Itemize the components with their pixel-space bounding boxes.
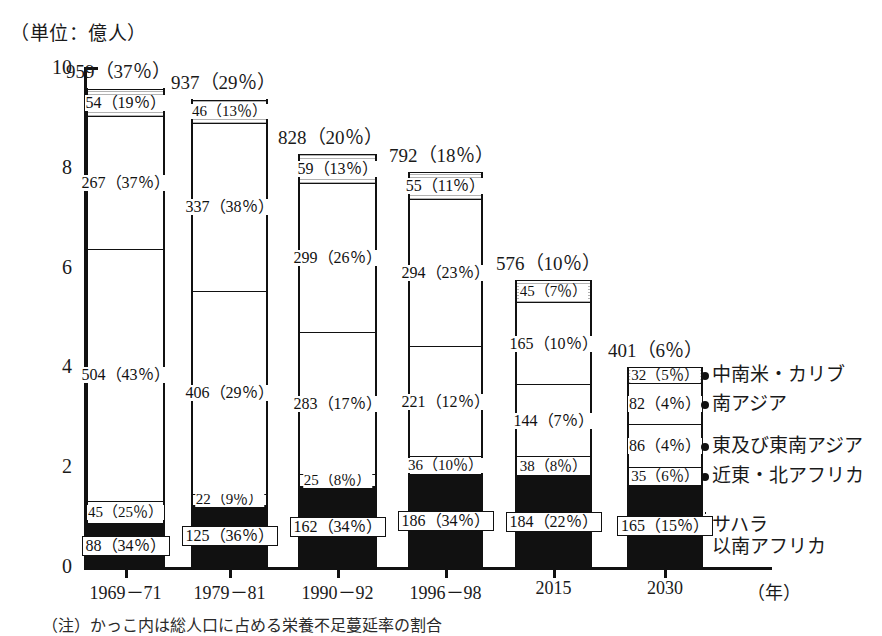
- segment-value-label: 22（9％）: [195, 492, 265, 507]
- segment-east-southeast-asia-2030[interactable]: 86（4％）: [629, 424, 701, 467]
- x-tick-label-1: 1979－81: [170, 578, 290, 604]
- bar-total-1969－71: 959（37％）: [66, 62, 171, 81]
- segment-value-label: 267（37％）: [81, 175, 171, 191]
- y-tick-label-8: 8: [30, 157, 72, 177]
- bar-1996－98[interactable]: 186（34％）36（10％）221（12％）294（23％）55（11％）: [408, 172, 483, 567]
- bar-1979－81[interactable]: 125（36％）22（9％）406（29％）337（38％）46（13％）: [191, 99, 268, 567]
- segment-value-label: 46（13％）: [191, 104, 268, 119]
- legend-dot-south-asia: [701, 401, 709, 409]
- legend-dot-near-east-north-africa: [701, 473, 709, 481]
- segment-south-asia-1990－92[interactable]: 299（26％）: [300, 183, 375, 332]
- segment-value-label: 32（5％）: [630, 368, 700, 383]
- x-tick-4: [553, 567, 556, 578]
- x-tick-1: [229, 567, 232, 578]
- segment-latin-america-caribbean-2030[interactable]: 32（5％）: [629, 367, 701, 383]
- bar-1969－71[interactable]: 88（34％）45（25％）504（43％）267（37％）54（19％）: [86, 88, 165, 567]
- bar-2030[interactable]: 165（15％）35（6％）86（4％）82（4％）32（5％）: [627, 367, 703, 567]
- segment-east-southeast-asia-1996－98[interactable]: 221（12％）: [410, 346, 481, 456]
- segment-value-label: 299（26％）: [293, 250, 383, 266]
- bar-total-2015: 576（10％）: [496, 254, 601, 273]
- segment-value-label: 406（29％）: [185, 385, 275, 401]
- segment-value-label: 45（25％）: [87, 505, 164, 520]
- segment-east-southeast-asia-1979－81[interactable]: 406（29％）: [193, 291, 266, 494]
- segment-near-east-north-africa-1969－71[interactable]: 45（25％）: [88, 501, 163, 523]
- legend-leader-sub-saharan-africa: [705, 512, 706, 514]
- segment-value-label: 144（7％）: [513, 413, 595, 429]
- segment-value-label: 294（23％）: [401, 265, 491, 281]
- x-tick-label-3: 1996－98: [386, 578, 506, 604]
- legend-label-latin-america-caribbean: 中南米・カリブ: [712, 364, 845, 386]
- segment-sub-saharan-africa-1979－81[interactable]: 125（36％）: [193, 505, 266, 567]
- segment-east-southeast-asia-1990－92[interactable]: 283（17％）: [300, 332, 375, 473]
- legend-label-east-southeast-asia: 東及び東南アジア: [712, 435, 863, 457]
- y-axis-unit-caption: （単位：億人）: [10, 18, 147, 45]
- segment-near-east-north-africa-1979－81[interactable]: 22（9％）: [193, 494, 266, 505]
- segment-value-label: 54（19％）: [85, 95, 167, 111]
- segment-value-label: 25（8％）: [303, 473, 373, 488]
- x-tick-0: [125, 567, 128, 578]
- bar-total-1996－98: 792（18％）: [389, 146, 494, 165]
- segment-near-east-north-africa-2015[interactable]: 38（8％）: [517, 456, 590, 475]
- x-axis-line: [84, 567, 772, 570]
- segment-value-label: 36（10％）: [407, 458, 484, 473]
- legend-label-sub-saharan-africa: サハラ 以南アフリカ: [712, 514, 826, 558]
- y-tick-label-2: 2: [30, 456, 72, 476]
- segment-value-label: 45（7％）: [519, 284, 589, 299]
- segment-sub-saharan-africa-1996－98[interactable]: 186（34％）: [410, 474, 481, 567]
- segment-south-asia-2015[interactable]: 165（10％）: [517, 302, 590, 384]
- bar-total-1990－92: 828（20％）: [278, 128, 383, 147]
- segment-value-label: 184（22％）: [506, 512, 602, 532]
- x-tick-label-2: 1990－92: [278, 578, 398, 604]
- segment-near-east-north-africa-2030[interactable]: 35（6％）: [629, 467, 701, 484]
- y-tick-label-6: 6: [30, 257, 72, 277]
- segment-sub-saharan-africa-1990－92[interactable]: 162（34％）: [300, 486, 375, 567]
- segment-near-east-north-africa-1990－92[interactable]: 25（8％）: [300, 474, 375, 486]
- segment-value-label: 162（34％）: [290, 517, 386, 537]
- legend-label-near-east-north-africa: 近東・北アフリカ: [712, 465, 864, 487]
- chart-footnote: （注）かっこ内は総人口に占める栄養不足蔓延率の割合: [42, 612, 442, 636]
- legend-label-south-asia: 南アジア: [712, 393, 787, 415]
- segment-value-label: 504（43％）: [81, 367, 171, 383]
- segment-value-label: 221（12％）: [401, 394, 491, 410]
- bar-total-1979－81: 937（29％）: [171, 73, 276, 92]
- x-tick-label-5: 2030: [605, 578, 725, 599]
- segment-latin-america-caribbean-2015[interactable]: 45（7％）: [517, 280, 590, 302]
- x-tick-5: [664, 567, 667, 578]
- segment-sub-saharan-africa-1969－71[interactable]: 88（34％）: [88, 523, 163, 567]
- segment-value-label: 165（15％）: [617, 516, 713, 536]
- segment-south-asia-1996－98[interactable]: 294（23％）: [410, 199, 481, 346]
- segment-value-label: 59（13％）: [297, 161, 379, 177]
- x-tick-2: [337, 567, 340, 578]
- bar-1990－92[interactable]: 162（34％）25（8％）283（17％）299（26％）59（13％）: [298, 154, 377, 567]
- segment-value-label: 186（34％）: [398, 511, 494, 531]
- segment-value-label: 337（38％）: [185, 199, 275, 215]
- segment-sub-saharan-africa-2030[interactable]: 165（15％）: [629, 485, 701, 567]
- segment-east-southeast-asia-2015[interactable]: 144（7％）: [517, 384, 590, 456]
- x-tick-label-0: 1969－71: [66, 578, 186, 604]
- y-tick-label-0: 0: [30, 556, 72, 576]
- segment-south-asia-2030[interactable]: 82（4％）: [629, 383, 701, 424]
- y-tick-label-4: 4: [30, 356, 72, 376]
- bar-total-2030: 401（6％）: [608, 341, 703, 360]
- segment-latin-america-caribbean-1996－98[interactable]: 55（11％）: [410, 172, 481, 199]
- segment-value-label: 86（4％）: [628, 438, 702, 454]
- x-tick-label-4: 2015: [494, 578, 614, 599]
- x-tick-3: [445, 567, 448, 578]
- segment-latin-america-caribbean-1990－92[interactable]: 59（13％）: [300, 154, 375, 183]
- segment-south-asia-1969－71[interactable]: 267（37％）: [88, 116, 163, 249]
- segment-value-label: 55（11％）: [405, 178, 486, 194]
- segment-latin-america-caribbean-1969－71[interactable]: 54（19％）: [88, 89, 163, 116]
- segment-near-east-north-africa-1996－98[interactable]: 36（10％）: [410, 456, 481, 474]
- segment-latin-america-caribbean-1979－81[interactable]: 46（13％）: [193, 100, 266, 123]
- segment-sub-saharan-africa-2015[interactable]: 184（22％）: [517, 475, 590, 567]
- legend-dot-east-southeast-asia: [701, 443, 709, 451]
- segment-value-label: 82（4％）: [628, 396, 702, 412]
- segment-value-label: 88（34％）: [82, 536, 170, 556]
- x-axis-unit-label: （年）: [747, 578, 801, 604]
- segment-value-label: 38（8％）: [519, 459, 589, 474]
- bar-2015[interactable]: 184（22％）38（8％）144（7％）165（10％）45（7％）: [515, 280, 592, 567]
- segment-south-asia-1979－81[interactable]: 337（38％）: [193, 123, 266, 291]
- legend-dot-latin-america-caribbean: [701, 372, 709, 380]
- segment-east-southeast-asia-1969－71[interactable]: 504（43％）: [88, 249, 163, 500]
